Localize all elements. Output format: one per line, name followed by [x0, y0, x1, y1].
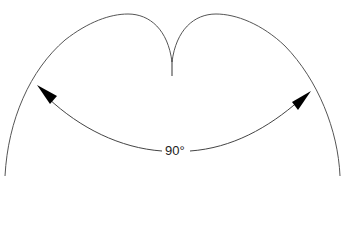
left-arrowhead-icon — [37, 85, 57, 104]
right-arrowhead-icon — [292, 91, 311, 110]
angle-label: 90° — [163, 143, 187, 159]
